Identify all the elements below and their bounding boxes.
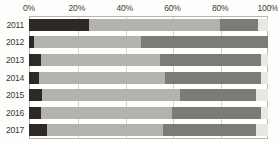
bar-segment-2 [41,107,172,119]
bar-rows [29,16,268,139]
bar-segment-4 [256,89,268,101]
y-tick-label: 2015 [6,90,24,100]
bar-segment-2 [34,36,142,48]
bar-segment-3 [160,54,260,66]
x-tick-label: 40% [116,3,132,13]
y-tick-label: 2012 [6,37,24,47]
y-axis: 2011201220132014201520162017 [0,16,27,139]
x-tick-label: 60% [164,3,180,13]
bar-segment-2 [42,89,179,101]
y-tick-label: 2014 [6,73,24,83]
y-tick-label: 2016 [6,108,24,118]
bar-segment-3 [165,72,261,84]
bar-segment-2 [41,54,161,66]
bar-row [29,124,268,136]
x-tick-label: 100% [258,3,278,13]
bar-row [29,107,268,119]
bar-segment-4 [258,19,268,31]
bar-segment-4 [256,124,268,136]
x-axis: 0%20%40%60%80%100% [0,0,278,17]
bar-segment-1 [29,72,39,84]
bar-segment-4 [261,107,268,119]
bar-segment-2 [39,72,166,84]
bar-segment-3 [172,107,260,119]
bar-segment-3 [163,124,256,136]
bar-segment-1 [29,107,41,119]
y-tick-label: 2017 [6,125,24,135]
bar-segment-1 [29,89,42,101]
bar-segment-2 [89,19,220,31]
x-tick-label: 80% [212,3,228,13]
bar-segment-3 [141,36,268,48]
y-tick-label: 2011 [7,20,24,30]
bar-segment-4 [261,54,268,66]
stacked-bar-chart: 0%20%40%60%80%100% 201120122013201420152… [0,0,278,142]
bar-row [29,89,268,101]
bar-segment-3 [180,89,256,101]
bar-segment-1 [29,19,89,31]
x-tick-label: 20% [69,3,85,13]
bar-row [29,72,268,84]
bar-segment-1 [29,124,47,136]
bar-row [29,19,268,31]
y-tick-label: 2013 [6,55,24,65]
bar-segment-4 [261,72,268,84]
bar-row [29,36,268,48]
bar-segment-3 [220,19,258,31]
bar-segment-1 [29,54,41,66]
bar-row [29,54,268,66]
bar-segment-2 [47,124,163,136]
x-tick-label: 0% [23,3,35,13]
